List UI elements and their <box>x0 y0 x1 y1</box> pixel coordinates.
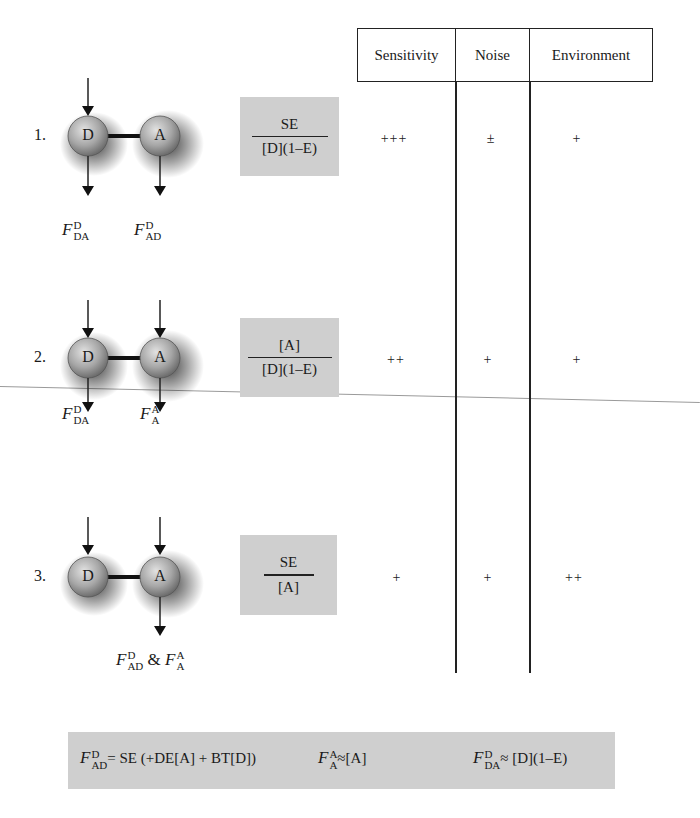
noise-row-2: + <box>484 352 493 368</box>
environment-row-1: + <box>573 131 582 147</box>
acceptor-node-2: A <box>152 348 168 366</box>
row-number-2: 2. <box>34 348 46 366</box>
noise-row-3: + <box>484 570 493 586</box>
ratio-numerator-1: SE <box>281 116 299 136</box>
sensitivity-row-1: +++ <box>381 131 408 147</box>
acceptor-node-3: A <box>152 567 168 585</box>
header-noise: Noise <box>456 29 530 81</box>
environment-row-3: ++ <box>565 570 583 586</box>
flux-label-2b: FAA <box>140 404 159 426</box>
ratio-numerator-3: SE <box>280 554 298 574</box>
column-divider-environment <box>529 82 531 673</box>
acceptor-node-1: A <box>152 126 168 144</box>
flux-label-1b: FDAD <box>134 220 161 242</box>
formula-fda: FDDA≈ [D](1–E) <box>473 748 567 771</box>
column-divider-noise <box>455 82 457 673</box>
ratio-denominator-3: [A] <box>278 576 299 596</box>
formula-fad: FDAD= SE (+DE[A] + BT[D]) <box>80 748 256 771</box>
ratio-box-3: SE [A] <box>240 535 337 615</box>
flux-label-2a: FDDA <box>62 404 89 426</box>
header-environment: Environment <box>530 29 652 81</box>
donor-node-1: D <box>80 126 96 144</box>
flux-label-3: FDAD & FAA <box>116 650 184 672</box>
row-number-1: 1. <box>34 126 46 144</box>
sensitivity-row-3: + <box>393 570 402 586</box>
header-sensitivity: Sensitivity <box>358 29 456 81</box>
ratio-box-2: [A] [D](1–E) <box>240 318 339 397</box>
flux-label-1a: FDDA <box>62 220 89 242</box>
donor-node-2: D <box>80 348 96 366</box>
ratio-denominator-1: [D](1–E) <box>262 137 317 157</box>
sensitivity-row-2: ++ <box>387 352 405 368</box>
ratio-box-1: SE [D](1–E) <box>240 97 339 176</box>
ratio-numerator-2: [A] <box>279 337 300 357</box>
environment-row-2: + <box>573 352 582 368</box>
formula-faa: FAA≈[A] <box>318 748 366 771</box>
footer-formula-box: FDAD= SE (+DE[A] + BT[D]) FAA≈[A] FDDA≈ … <box>68 732 615 789</box>
donor-node-3: D <box>80 567 96 585</box>
noise-row-1: ± <box>487 131 496 147</box>
ratio-denominator-2: [D](1–E) <box>262 358 317 378</box>
row-number-3: 3. <box>34 567 46 585</box>
table-header: Sensitivity Noise Environment <box>357 28 653 82</box>
